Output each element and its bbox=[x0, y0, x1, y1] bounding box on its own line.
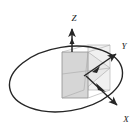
x-axis-label: X bbox=[122, 114, 129, 124]
vertical-front-plane bbox=[62, 52, 88, 98]
figure-container: Z Y X bbox=[0, 0, 138, 129]
coordinate-system-diagram: Z Y X bbox=[0, 0, 138, 129]
